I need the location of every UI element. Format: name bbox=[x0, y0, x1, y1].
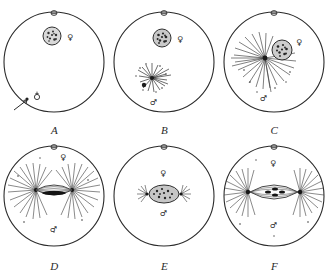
panel-a: ♀ A bbox=[0, 0, 109, 135]
female-symbol-label: ♀ bbox=[270, 159, 276, 168]
female-pronucleus bbox=[272, 40, 292, 60]
panel-letter-e: E bbox=[110, 260, 219, 270]
female-symbol-label: ♀ bbox=[296, 38, 302, 47]
panel-letter-d: D bbox=[0, 260, 109, 270]
panel-c: ♀ ♂ C bbox=[220, 0, 329, 135]
fertilization-figure: ♀ A bbox=[0, 0, 329, 270]
polar-body-marker bbox=[271, 11, 277, 16]
female-symbol-label: ♀ bbox=[177, 35, 183, 44]
female-symbol-label: ♀ bbox=[60, 153, 66, 162]
mitotic-spindle bbox=[36, 185, 72, 195]
panel-f-drawing: ♀ ♂ bbox=[220, 136, 329, 270]
panel-c-drawing: ♀ ♂ bbox=[220, 0, 329, 135]
female-pronucleus bbox=[43, 27, 61, 45]
polar-body-marker bbox=[51, 145, 57, 150]
fused-nucleus bbox=[149, 185, 179, 203]
polar-body-marker bbox=[161, 145, 167, 150]
male-symbol-label: ♂ bbox=[270, 221, 277, 230]
polar-body-marker bbox=[161, 11, 167, 16]
egg-cell-membrane bbox=[114, 12, 214, 112]
panel-d-drawing: ♀ ♂ bbox=[0, 136, 109, 270]
panel-f: ♀ ♂ F bbox=[220, 136, 329, 270]
sperm-entry-point bbox=[25, 92, 39, 101]
panel-e: ♀ bbox=[110, 136, 219, 270]
male-symbol-label: ♂ bbox=[260, 94, 267, 103]
panel-letter-f: F bbox=[220, 260, 329, 270]
panel-letter-a: A bbox=[0, 124, 109, 136]
panel-e-drawing: ♀ bbox=[110, 136, 219, 270]
panel-letter-b: B bbox=[110, 124, 219, 136]
male-symbol-label: ♂ bbox=[160, 209, 167, 218]
chromosome-plate bbox=[42, 191, 66, 195]
male-symbol-label: ♂ bbox=[150, 98, 157, 107]
panel-b: ♀ ♂ bbox=[110, 0, 219, 135]
female-symbol-label: ♀ bbox=[160, 169, 166, 178]
aster-left bbox=[137, 185, 149, 202]
panel-b-drawing: ♀ ♂ bbox=[110, 0, 219, 135]
panel-a-drawing: ♀ bbox=[0, 0, 109, 135]
sperm-aster bbox=[135, 63, 171, 93]
female-symbol-label: ♀ bbox=[67, 33, 73, 42]
male-symbol-label: ♂ bbox=[50, 225, 57, 234]
panel-d: ♀ ♂ D bbox=[0, 136, 109, 270]
female-pronucleus bbox=[153, 29, 171, 47]
entry-arrow bbox=[14, 100, 27, 110]
panel-letter-c: C bbox=[220, 124, 329, 136]
polar-body-marker bbox=[271, 145, 277, 150]
polar-body-marker bbox=[51, 11, 57, 16]
aster-right bbox=[179, 185, 191, 202]
egg-cell-membrane bbox=[224, 12, 324, 112]
mitotic-spindle bbox=[250, 185, 298, 199]
